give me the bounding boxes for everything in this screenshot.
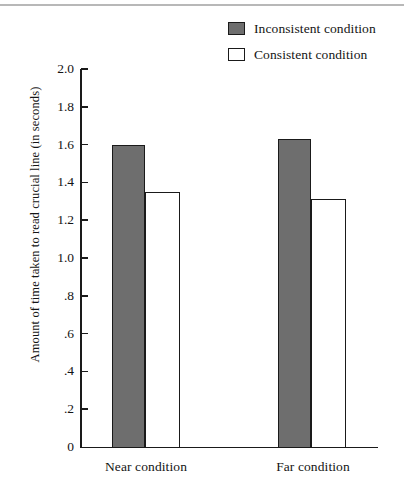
y-tick-0-6 bbox=[81, 333, 88, 335]
y-tick-1-0 bbox=[81, 257, 88, 259]
y-tick-label-1-2: 1.2 bbox=[28, 213, 74, 227]
x-tick-label-far: Far condition bbox=[243, 459, 383, 474]
y-tick-2-0 bbox=[81, 68, 88, 70]
legend-label-consistent: Consistent condition bbox=[254, 47, 367, 62]
y-tick-1-6 bbox=[81, 144, 88, 146]
legend-item-inconsistent: Inconsistent condition bbox=[228, 18, 404, 38]
y-tick-1-4 bbox=[81, 182, 88, 184]
y-tick-label-0-8: .8 bbox=[28, 289, 74, 303]
chart-legend: Inconsistent condition Consistent condit… bbox=[228, 18, 404, 70]
bar-near-consistent[interactable] bbox=[145, 192, 180, 448]
y-tick-1-2 bbox=[81, 219, 88, 221]
y-tick-1-8 bbox=[81, 106, 88, 108]
y-tick-0-8 bbox=[81, 295, 88, 297]
y-tick-label-2-0: 2.0 bbox=[28, 62, 74, 76]
y-tick-label-0-2: .2 bbox=[28, 402, 74, 416]
y-tick-label-0-4: .4 bbox=[28, 364, 74, 378]
header-divider bbox=[0, 4, 404, 6]
y-tick-label-1-0: 1.0 bbox=[28, 251, 74, 265]
legend-item-consistent: Consistent condition bbox=[228, 44, 404, 64]
y-tick-label-1-4: 1.4 bbox=[28, 175, 74, 189]
legend-label-inconsistent: Inconsistent condition bbox=[254, 21, 376, 36]
y-tick-label-0: 0 bbox=[28, 440, 74, 454]
bar-near-inconsistent[interactable] bbox=[112, 145, 145, 448]
y-tick-label-1-8: 1.8 bbox=[28, 100, 74, 114]
y-tick-0-2 bbox=[81, 408, 88, 410]
x-tick-label-near: Near condition bbox=[76, 459, 216, 474]
chart-figure: Inconsistent condition Consistent condit… bbox=[0, 0, 404, 490]
legend-swatch-filled-icon bbox=[228, 22, 245, 35]
bar-far-inconsistent[interactable] bbox=[278, 139, 311, 448]
y-tick-label-0-6: .6 bbox=[28, 327, 74, 341]
bar-far-consistent[interactable] bbox=[311, 199, 346, 447]
y-tick-label-1-6: 1.6 bbox=[28, 138, 74, 152]
y-tick-0-4 bbox=[81, 371, 88, 373]
legend-swatch-hollow-icon bbox=[228, 48, 245, 61]
